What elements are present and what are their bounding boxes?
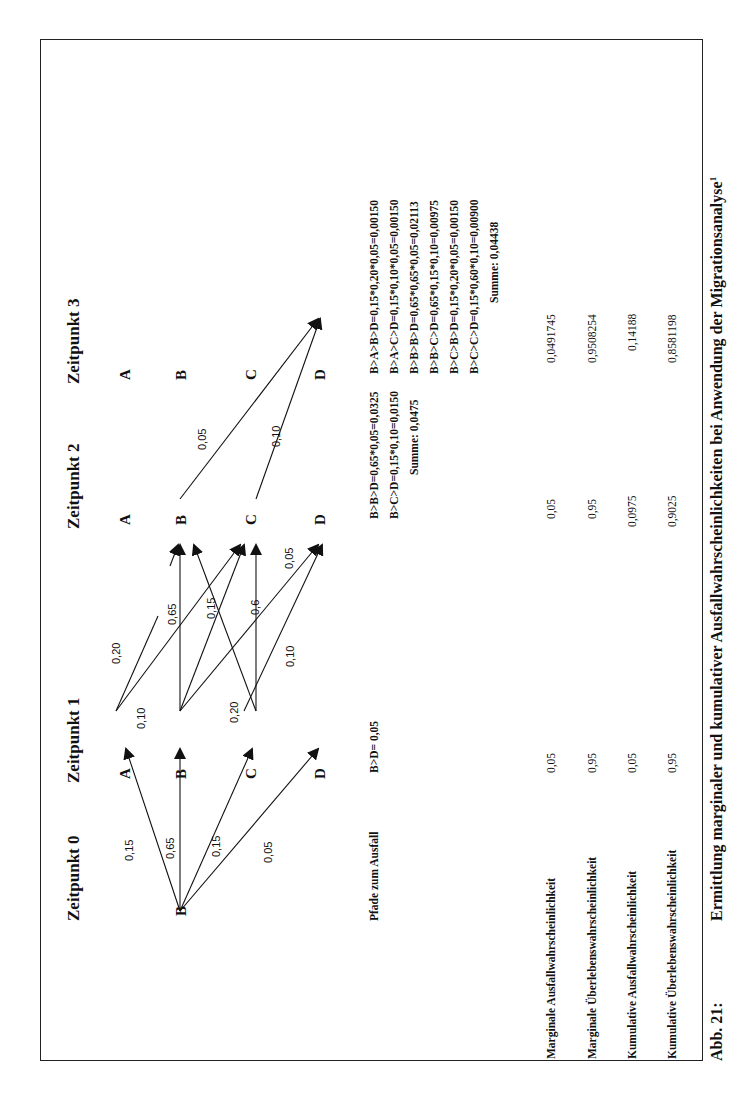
timepoint-0-header: Zeitpunkt 0: [64, 836, 84, 922]
path-t3-3: B>B>C>D=0,65*0,15*0,10=0,00975: [428, 200, 440, 374]
metric-marg-survival-t3: 0,9508254: [586, 314, 598, 363]
node-t1-C: C: [243, 768, 260, 779]
node-t2-A: A: [117, 514, 134, 525]
edge-t1-A-B-head: [170, 545, 178, 566]
caption-title-text: Ermittlung marginaler und kumulativer Au…: [708, 181, 725, 921]
edge-t1-B-C: [180, 545, 244, 711]
metric-marg-default-t3: 0,0491745: [545, 314, 557, 363]
metric-cum-default-t2: 0,0975: [626, 495, 638, 527]
metric-marg-survival-t1: 0,95: [586, 753, 598, 773]
edge-t2-B-D: [180, 319, 318, 499]
path-t3-2: B>B>B>D=0,65*0,65*0,05=0,02113: [408, 201, 420, 374]
node-t2-D: D: [312, 514, 329, 525]
edge-label-t0-B-D: 0,05: [262, 842, 274, 863]
metric-marg-default-t2: 0,05: [545, 499, 557, 519]
edge-label-t1-B-C: 0,15: [205, 598, 217, 619]
path-t2-1: B>C>D=0,15*0,10=0,0150: [388, 391, 400, 519]
edge-label-t1-C-C: 0,6: [249, 600, 261, 615]
path-t3-4: B>C>B>D=0,15*0,20*0,05=0,00150: [448, 200, 460, 374]
edge-label-t0-B-A: 0,15: [123, 840, 135, 861]
path-t2-0: B>B>D=0,65*0,05=0,0325: [368, 377, 380, 519]
edge-label-t1-C-D: 0,10: [284, 646, 296, 667]
metric-marg-default-t1: 0,05: [545, 753, 557, 773]
edge-label-t1-B-B: 0,65: [166, 604, 178, 625]
metric-cum-survival-t1: 0,95: [666, 753, 678, 773]
metric-cum-survival-t3: 0,8581198: [666, 315, 678, 363]
metric-marg-survival-t2: 0,95: [586, 499, 598, 519]
path-t3-sum: Summe: 0,04438: [488, 222, 500, 303]
edge-label-t1-A-C: 0,10: [135, 708, 147, 729]
edge-t1-C-B: [194, 545, 256, 711]
path-t1-0: B>D= 0,05: [368, 721, 380, 773]
edge-t0-B-A: [126, 749, 180, 911]
caption-footnote-marker: 1: [708, 177, 718, 182]
figure-caption-number: Abb. 21:: [708, 1002, 726, 1061]
node-t2-B: B: [173, 515, 190, 525]
metric-cum-default-t1: 0,05: [626, 753, 638, 773]
node-t1-B: B: [173, 769, 190, 779]
node-t3-B: B: [173, 370, 190, 380]
node-t2-C: C: [243, 514, 260, 525]
edge-label-t1-B-D: 0,05: [283, 548, 295, 569]
node-t3-D: D: [312, 369, 329, 380]
path-t3-1: B>A>C>D=0,15*0,10*0,05=0,00150: [388, 199, 400, 374]
metric-cum-survival-t2: 0,9025: [666, 495, 678, 527]
edge-t0-B-C: [180, 749, 252, 911]
node-t1-D: D: [312, 768, 329, 779]
timepoint-3-header: Zeitpunkt 3: [64, 299, 84, 385]
edge-label-t2-B-D: 0,05: [196, 429, 208, 450]
metric-label-cum-default: Kumulative Ausfallwahrscheinlichkeit: [626, 871, 638, 1059]
node-t3-C: C: [243, 369, 260, 380]
rotated-page: Zeitpunkt 0 Zeitpunkt 1 Zeitpunkt 2 Zeit…: [0, 0, 739, 1111]
metric-label-cum-survival: Kumulative Überlebenswahrscheinlichkeit: [666, 850, 678, 1059]
edge-label-t1-A-B: 0,20: [110, 643, 122, 664]
edge-label-t2-C-D: 0,10: [270, 426, 282, 447]
paths-row-label: Pfade zum Ausfall: [368, 832, 380, 921]
edge-t2-C-D: [256, 319, 320, 499]
path-t2-sum: Summe: 0,0475: [408, 400, 420, 475]
timepoint-1-header: Zeitpunkt 1: [64, 698, 84, 784]
edge-label-t0-B-C: 0,15: [210, 836, 222, 857]
edge-label-t0-B-B: 0,65: [164, 838, 176, 859]
metric-label-marg-survival: Marginale Überlebenswahrscheinlichkeit: [586, 857, 598, 1059]
figure-caption-title: Ermittlung marginaler und kumulativer Au…: [708, 177, 726, 921]
edge-t1-A-C: [116, 545, 240, 711]
node-t1-A: A: [117, 768, 134, 779]
timepoint-2-header: Zeitpunkt 2: [64, 444, 84, 530]
node-t3-A: A: [117, 369, 134, 380]
node-t0-B: B: [173, 906, 190, 916]
edge-label-t1-C-B: 0,20: [228, 702, 240, 723]
path-t3-5: B>C>C>D=0,15*0,60*0,10=0,00900: [468, 199, 480, 374]
metric-label-marg-default: Marginale Ausfallwahrscheinlichkeit: [545, 878, 557, 1059]
path-t3-0: B>A>B>D=0,15*0,20*0,05=0,00150: [368, 200, 380, 374]
edge-t1-B-D: [180, 545, 318, 711]
metric-cum-default-t3: 0,14188: [626, 314, 638, 351]
